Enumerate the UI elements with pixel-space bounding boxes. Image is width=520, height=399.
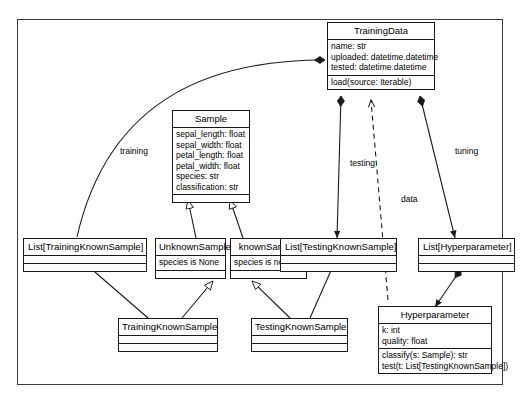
- class-attribute: petal_length: float: [176, 150, 246, 161]
- class-box-list-hyperparameter[interactable]: List[Hyperparameter]: [418, 238, 515, 272]
- class-title: Hyperparameter: [379, 307, 491, 324]
- class-box-training-known-sample[interactable]: TrainingKnownSample: [118, 318, 218, 352]
- edge-label-data: data: [401, 194, 418, 204]
- edge-label-text: tuning: [455, 146, 478, 156]
- class-method: classify(s: Sample): str: [382, 350, 488, 361]
- class-box-training-data[interactable]: TrainingData name: str uploaded: datetim…: [327, 22, 435, 90]
- edge-label-text: data: [401, 194, 418, 204]
- edge-label-tuning: tuning: [455, 146, 478, 156]
- class-attribute: species is None: [159, 257, 222, 268]
- class-methods: [252, 344, 347, 351]
- class-attributes: [24, 256, 146, 264]
- class-methods: [24, 264, 146, 271]
- class-title: TrainingData: [328, 23, 434, 40]
- class-attributes: species is None: [156, 256, 225, 271]
- class-attribute: species: str: [176, 171, 246, 182]
- class-attributes: sepal_length: float sepal_width: float p…: [173, 128, 249, 195]
- edge-label-text: testing: [350, 158, 375, 168]
- diagram-canvas: TrainingData name: str uploaded: datetim…: [0, 0, 520, 399]
- class-title: UnknownSample: [156, 239, 225, 256]
- class-methods: [281, 264, 396, 271]
- class-methods: [173, 195, 249, 202]
- class-title: TestingKnownSample: [252, 319, 347, 336]
- class-method: load(source: Iterable): [331, 77, 431, 88]
- class-box-unknown-sample[interactable]: UnknownSample species is None: [155, 238, 226, 279]
- class-attributes: [419, 256, 514, 264]
- class-attributes: [252, 336, 347, 344]
- class-box-list-testing-known-sample[interactable]: List[TestingKnownSample]: [280, 238, 397, 272]
- edge-label-training: training: [120, 146, 148, 156]
- class-box-testing-known-sample[interactable]: TestingKnownSample: [251, 318, 348, 352]
- class-attribute: k: int: [382, 325, 488, 336]
- class-attribute: sepal_length: float: [176, 129, 246, 140]
- class-attribute: petal_width: float: [176, 161, 246, 172]
- class-methods: [156, 271, 225, 278]
- class-title: TrainingKnownSample: [119, 319, 217, 336]
- class-methods: classify(s: Sample): str test(t: List[Te…: [379, 349, 491, 373]
- class-attribute: name: str: [331, 41, 431, 52]
- class-attribute: quality: float: [382, 336, 488, 347]
- edge-label-text: training: [120, 146, 148, 156]
- class-attribute: sepal_width: float: [176, 140, 246, 151]
- class-methods: [119, 344, 217, 351]
- class-methods: load(source: Iterable): [328, 76, 434, 90]
- class-attributes: [119, 336, 217, 344]
- class-box-sample[interactable]: Sample sepal_length: float sepal_width: …: [172, 110, 250, 203]
- class-attributes: k: int quality: float: [379, 324, 491, 349]
- class-box-list-training-known-sample[interactable]: List[TrainingKnownSample]: [23, 238, 147, 272]
- class-attribute: classification: str: [176, 182, 246, 193]
- class-box-hyperparameter[interactable]: Hyperparameter k: int quality: float cla…: [378, 306, 492, 374]
- class-title: Sample: [173, 111, 249, 128]
- class-attribute: uploaded: datetime.datetime: [331, 52, 431, 63]
- class-attribute: tested: datetime.datetime: [331, 62, 431, 73]
- class-attributes: [281, 256, 396, 264]
- class-title: List[TestingKnownSample]: [281, 239, 396, 256]
- class-attributes: name: str uploaded: datetime.datetime te…: [328, 40, 434, 76]
- class-method: test(t: List[TestingKnownSample]): [382, 361, 488, 372]
- class-title: List[Hyperparameter]: [419, 239, 514, 256]
- class-methods: [419, 264, 514, 271]
- edge-label-testing: testing: [350, 158, 375, 168]
- class-title: List[TrainingKnownSample]: [24, 239, 146, 256]
